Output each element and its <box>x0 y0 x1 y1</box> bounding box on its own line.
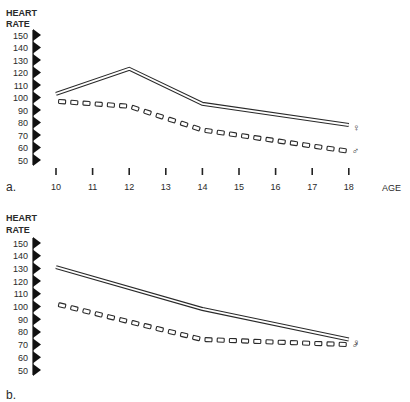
y-axis-title-line2: RATE <box>6 225 30 235</box>
male-dash-segment <box>168 117 176 123</box>
male-dash-segment <box>327 146 335 151</box>
y-tick-label: 60 <box>18 353 28 363</box>
triangle-marker-icon <box>33 129 41 141</box>
y-tick-label: 130 <box>13 56 28 66</box>
y-tick-label: 120 <box>13 277 28 287</box>
y-tick-label: 90 <box>18 315 28 325</box>
male-dash-segment <box>229 338 236 342</box>
male-dash-segment <box>327 342 334 346</box>
male-dash-segment <box>290 141 298 146</box>
x-tick-label: 18 <box>344 182 354 192</box>
x-axis-ticks: 101112131415161718 <box>51 168 354 192</box>
male-dash-segment <box>254 339 261 343</box>
triangle-marker-icon <box>33 92 41 104</box>
x-tick-label: 16 <box>271 182 281 192</box>
triangle-marker-icon <box>33 351 41 363</box>
triangle-marker-icon <box>33 339 41 351</box>
triangle-marker-icon <box>33 29 41 41</box>
x-tick-label: 12 <box>124 182 134 192</box>
male-dash-segment <box>303 341 310 345</box>
plot-area: ♀♂ <box>56 69 360 156</box>
male-dash-segment <box>131 320 139 326</box>
panel-label: a. <box>6 180 16 194</box>
male-dash-segment <box>241 134 249 139</box>
male-dash-segment <box>302 143 310 148</box>
x-tick-label: 10 <box>51 182 61 192</box>
male-dash-segment <box>339 148 347 153</box>
male-dash-segment <box>95 312 103 318</box>
male-dash-segment <box>315 144 323 149</box>
male-dash-segment <box>192 335 200 341</box>
male-dash-segment <box>315 341 322 345</box>
male-dash-segment <box>131 105 139 111</box>
y-axis-title-line1: HEART <box>6 213 38 223</box>
triangle-marker-icon <box>33 142 41 154</box>
female-line <box>56 267 349 339</box>
y-axis-ticks: 1501401301201101009080706050 <box>13 237 41 376</box>
y-tick-label: 70 <box>18 340 28 350</box>
male-symbol-icon: ♂ <box>352 339 360 350</box>
male-dash-segment <box>205 128 213 133</box>
male-dash-segment <box>95 102 102 106</box>
triangle-marker-icon <box>33 104 41 116</box>
triangle-marker-icon <box>33 117 41 129</box>
triangle-marker-icon <box>33 288 41 300</box>
triangle-marker-icon <box>33 364 41 376</box>
x-tick-label: 15 <box>234 182 244 192</box>
triangle-marker-icon <box>33 154 41 166</box>
male-dash-segment <box>119 104 126 108</box>
male-dash-segment <box>71 100 78 104</box>
male-dash-segment <box>180 332 188 338</box>
y-axis-title-line1: HEART <box>6 8 38 18</box>
y-tick-label: 100 <box>13 302 28 312</box>
male-dash-segment <box>290 341 297 345</box>
y-tick-label: 140 <box>13 43 28 53</box>
y-tick-label: 110 <box>14 289 28 299</box>
y-tick-label: 140 <box>13 251 28 261</box>
y-axis-title-line2: RATE <box>6 19 30 29</box>
male-dash-segment <box>266 340 273 344</box>
x-axis-title: AGE <box>382 183 401 193</box>
male-dash-segment <box>58 303 66 309</box>
panel-a: HEART RATE 1501401301201101009080706050 … <box>6 8 401 194</box>
y-tick-label: 100 <box>13 93 28 103</box>
y-tick-label: 120 <box>13 68 28 78</box>
panel-b: HEART RATE 1501401301201101009080706050 … <box>6 213 360 402</box>
y-tick-label: 50 <box>18 366 28 376</box>
male-dash-segment <box>266 137 274 142</box>
male-dash-segment <box>83 101 90 105</box>
male-dash-segment <box>70 306 78 312</box>
heart-rate-figure: HEART RATE 1501401301201101009080706050 … <box>0 0 410 402</box>
triangle-marker-icon <box>33 54 41 66</box>
male-dash-segment <box>229 132 237 137</box>
plot-area: ♀♂ <box>56 267 360 350</box>
triangle-marker-icon <box>33 250 41 262</box>
x-tick-label: 13 <box>161 182 171 192</box>
male-dash-segment <box>339 342 346 346</box>
triangle-marker-icon <box>33 79 41 91</box>
male-dash-segment <box>180 121 188 127</box>
male-dash-segment <box>278 139 286 144</box>
male-dash-segment <box>144 109 152 115</box>
male-dash-segment <box>217 338 224 342</box>
triangle-marker-icon <box>33 301 41 313</box>
y-axis-ticks: 1501401301201101009080706050 <box>13 29 41 166</box>
triangle-marker-icon <box>33 326 41 338</box>
male-dash-segment <box>156 326 164 332</box>
triangle-marker-icon <box>33 237 41 249</box>
y-tick-label: 70 <box>18 131 28 141</box>
male-dash-segment <box>107 315 115 321</box>
male-dash-segment <box>83 309 91 315</box>
triangle-marker-icon <box>33 42 41 54</box>
triangle-marker-icon <box>33 275 41 287</box>
male-dash-segment <box>192 125 200 131</box>
male-dash-segment <box>156 113 164 119</box>
y-tick-label: 150 <box>13 31 28 41</box>
male-dash-segment <box>58 99 65 103</box>
male-dash-segment <box>119 317 127 323</box>
triangle-marker-icon <box>33 67 41 79</box>
male-dash-segment <box>107 103 114 107</box>
y-tick-label: 130 <box>13 264 28 274</box>
triangle-marker-icon <box>33 313 41 325</box>
y-tick-label: 150 <box>13 239 28 249</box>
